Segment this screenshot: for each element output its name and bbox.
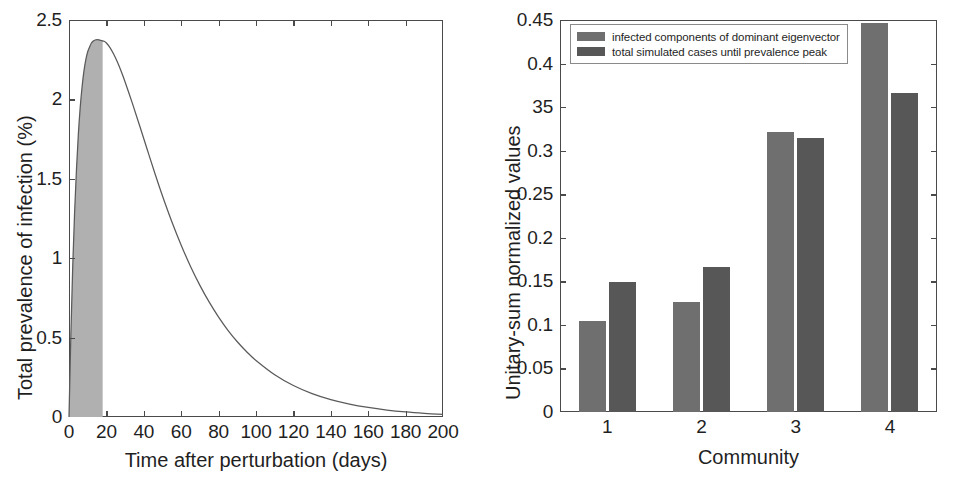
left-x-tick-mark xyxy=(256,20,257,26)
right-y-tick-mark xyxy=(931,368,937,369)
legend-label: infected components of dominant eigenvec… xyxy=(612,31,840,43)
right-y-tick-mark xyxy=(560,194,566,195)
legend-swatch-icon xyxy=(577,32,605,41)
left-x-tick-mark xyxy=(106,20,107,26)
left-x-tick-mark xyxy=(293,20,294,26)
left-x-tick-mark xyxy=(256,411,257,417)
right-y-tick-mark xyxy=(931,64,937,65)
right-y-tick-mark xyxy=(560,368,566,369)
right-y-tick-mark xyxy=(560,281,566,282)
left-x-tick-label: 180 xyxy=(390,421,421,443)
right-y-tick-label: 0.45 xyxy=(517,9,553,31)
left-y-tick-mark xyxy=(69,338,75,339)
right-y-tick-mark xyxy=(560,107,566,108)
left-x-tick-mark xyxy=(219,20,220,26)
right-x-axis-title: Community xyxy=(560,446,937,469)
right-y-tick-label: 0.4 xyxy=(527,53,553,75)
right-x-axis-ticks: 1234 xyxy=(482,416,964,446)
left-y-tick-mark xyxy=(69,258,75,259)
left-x-axis-ticks: 020406080100120140160180200 xyxy=(0,421,482,451)
left-y-tick-label: 2 xyxy=(52,88,62,110)
figure-two-panel: 00.511.522.5 020406080100120140160180200… xyxy=(0,0,964,479)
left-x-tick-label: 20 xyxy=(96,421,117,443)
left-x-tick-mark xyxy=(368,411,369,417)
bar-community-4-series-1 xyxy=(861,23,888,412)
right-y-tick-label: 35 xyxy=(532,96,553,118)
left-x-tick-mark xyxy=(331,20,332,26)
right-y-tick-mark xyxy=(931,281,937,282)
left-x-tick-mark xyxy=(406,20,407,26)
left-x-tick-mark xyxy=(144,20,145,26)
bar-community-2-series-2 xyxy=(703,267,730,412)
left-x-tick-label: 100 xyxy=(240,421,271,443)
bar-community-3-series-1 xyxy=(767,132,794,413)
left-y-tick-mark xyxy=(69,179,75,180)
right-y-tick-mark xyxy=(560,151,566,152)
left-x-tick-mark xyxy=(293,411,294,417)
panel-prevalence-curve: 00.511.522.5 020406080100120140160180200… xyxy=(0,0,482,479)
bar-community-3-series-2 xyxy=(797,138,824,412)
right-y-tick-mark xyxy=(931,151,937,152)
right-y-tick-mark xyxy=(931,194,937,195)
left-x-tick-mark xyxy=(181,411,182,417)
left-x-tick-label: 60 xyxy=(171,421,192,443)
right-y-tick-mark xyxy=(931,325,937,326)
right-y-tick-mark xyxy=(560,238,566,239)
legend-swatch-icon xyxy=(577,47,605,56)
left-x-tick-mark xyxy=(331,411,332,417)
bar-community-1-series-1 xyxy=(579,321,606,412)
prevalence-curve-plot xyxy=(69,20,443,417)
bar-community-2-series-1 xyxy=(673,302,700,412)
right-y-tick-label: 0.1 xyxy=(527,314,553,336)
left-x-tick-mark xyxy=(219,411,220,417)
left-x-tick-label: 40 xyxy=(133,421,154,443)
left-y-tick-label: 1.5 xyxy=(36,168,62,190)
panel-community-bars: 00.050.10.150.20.250.3350.40.45 1234 inf… xyxy=(482,0,964,479)
left-x-tick-mark xyxy=(106,411,107,417)
left-x-axis-title: Time after perturbation (days) xyxy=(69,449,443,472)
bar-group-container xyxy=(560,20,937,412)
right-y-tick-label: 0.2 xyxy=(527,227,553,249)
left-x-tick-mark xyxy=(368,20,369,26)
right-x-tick-label: 2 xyxy=(696,416,706,438)
legend-item-2: total simulated cases until prevalence p… xyxy=(577,44,840,59)
left-x-tick-mark xyxy=(144,411,145,417)
right-y-tick-mark xyxy=(931,238,937,239)
left-y-axis-title: Total prevalence of infection (%) xyxy=(14,115,37,400)
right-y-tick-mark xyxy=(560,325,566,326)
right-y-tick-mark xyxy=(931,107,937,108)
right-x-tick-label: 3 xyxy=(790,416,800,438)
right-y-axis-title: Unitary-sum normalized values xyxy=(502,125,525,400)
right-x-tick-label: 1 xyxy=(602,416,612,438)
left-x-tick-mark xyxy=(181,20,182,26)
right-x-tick-label: 4 xyxy=(885,416,895,438)
right-y-tick-mark xyxy=(560,64,566,65)
left-y-tick-label: 2.5 xyxy=(36,9,62,31)
legend-item-1: infected components of dominant eigenvec… xyxy=(577,29,840,44)
left-y-tick-label: 1 xyxy=(52,247,62,269)
legend: infected components of dominant eigenvec… xyxy=(570,24,848,64)
left-y-tick-label: 0.5 xyxy=(36,327,62,349)
left-x-tick-mark xyxy=(406,411,407,417)
left-y-tick-mark xyxy=(69,99,75,100)
legend-label: total simulated cases until prevalence p… xyxy=(612,46,827,58)
left-x-tick-label: 140 xyxy=(315,421,346,443)
left-x-tick-label: 200 xyxy=(427,421,458,443)
left-x-tick-label: 120 xyxy=(278,421,309,443)
left-x-tick-label: 0 xyxy=(64,421,74,443)
right-y-tick-label: 0.3 xyxy=(527,140,553,162)
bar-community-4-series-2 xyxy=(891,93,918,412)
bar-community-1-series-2 xyxy=(609,282,636,412)
left-x-tick-label: 160 xyxy=(353,421,384,443)
prevalence-line xyxy=(69,40,443,417)
left-x-tick-label: 80 xyxy=(208,421,229,443)
